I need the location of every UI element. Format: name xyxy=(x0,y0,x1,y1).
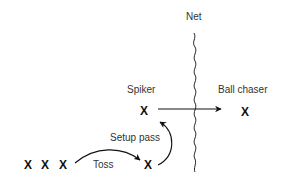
setup-pass-arrow xyxy=(158,122,172,165)
toss-label: Toss xyxy=(93,159,114,170)
net-label: Net xyxy=(186,11,202,22)
spiker-label: Spiker xyxy=(127,84,156,95)
tosser-marker-1: X xyxy=(24,158,32,172)
volleyball-play-diagram: Net Spiker X Ball chaser X Setup pass X … xyxy=(0,0,285,189)
net-line xyxy=(194,33,196,172)
tosser-marker-3: X xyxy=(59,158,67,172)
tosser-marker-2: X xyxy=(41,158,49,172)
spiker-marker: X xyxy=(140,104,148,118)
setup-pass-label: Setup pass xyxy=(110,132,160,143)
ball-chaser-label: Ball chaser xyxy=(218,84,268,95)
ball-chaser-marker: X xyxy=(241,105,249,119)
setter-marker: X xyxy=(144,158,152,172)
